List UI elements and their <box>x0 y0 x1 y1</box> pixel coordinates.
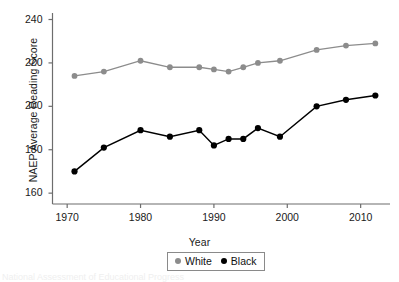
legend-entry-black[interactable]: Black <box>221 255 257 267</box>
legend-marker-black-icon <box>221 258 227 264</box>
legend-label-black: Black <box>231 255 257 267</box>
series-white <box>72 40 379 78</box>
x-tick-label-2000: 2000 <box>267 211 307 223</box>
data-point-black-1975[interactable] <box>101 144 107 150</box>
legend-marker-white-icon <box>175 258 181 264</box>
data-point-black-1971[interactable] <box>71 168 77 174</box>
data-point-white-2008[interactable] <box>343 43 349 49</box>
data-point-black-1984[interactable] <box>167 134 173 140</box>
data-point-white-1975[interactable] <box>101 69 107 75</box>
data-point-white-1988[interactable] <box>196 64 202 70</box>
data-series-layer <box>71 40 378 174</box>
y-tick-label-160: 160 <box>9 186 43 198</box>
x-tick-label-1990: 1990 <box>194 211 234 223</box>
data-point-black-1994[interactable] <box>240 136 246 142</box>
x-tick-label-2010: 2010 <box>341 211 381 223</box>
data-point-white-1980[interactable] <box>138 58 144 64</box>
series-line-black <box>75 95 376 171</box>
x-axis-title: Year <box>0 236 399 248</box>
data-point-white-1984[interactable] <box>167 64 173 70</box>
data-point-white-2012[interactable] <box>372 40 378 46</box>
series-line-white <box>75 43 376 76</box>
data-point-black-2004[interactable] <box>314 103 320 109</box>
y-tick-label-200: 200 <box>9 99 43 111</box>
data-point-black-1999[interactable] <box>277 134 283 140</box>
data-point-white-1971[interactable] <box>72 73 78 79</box>
data-point-black-1980[interactable] <box>137 127 143 133</box>
x-tick-label-1980: 1980 <box>121 211 161 223</box>
legend-label-white: White <box>185 255 212 267</box>
data-point-black-1988[interactable] <box>196 127 202 133</box>
y-tick-label-180: 180 <box>9 143 43 155</box>
data-point-black-1990[interactable] <box>211 142 217 148</box>
data-point-white-2004[interactable] <box>314 47 320 53</box>
data-point-white-1999[interactable] <box>277 58 283 64</box>
data-point-white-1990[interactable] <box>211 67 217 73</box>
x-axis-ticks <box>67 204 360 208</box>
data-point-white-1994[interactable] <box>240 64 246 70</box>
data-point-white-1996[interactable] <box>255 60 261 66</box>
chart-legend[interactable]: White Black <box>167 252 265 271</box>
data-point-white-1992[interactable] <box>226 69 232 75</box>
data-point-black-2012[interactable] <box>372 92 378 98</box>
data-point-black-1996[interactable] <box>255 125 261 131</box>
y-tick-label-240: 240 <box>9 13 43 25</box>
legend-entry-white[interactable]: White <box>175 255 212 267</box>
y-tick-label-220: 220 <box>9 56 43 68</box>
axis-lines <box>53 13 391 204</box>
series-black <box>71 92 378 174</box>
data-point-black-2008[interactable] <box>343 97 349 103</box>
x-tick-label-1970: 1970 <box>47 211 87 223</box>
data-point-black-1992[interactable] <box>225 136 231 142</box>
